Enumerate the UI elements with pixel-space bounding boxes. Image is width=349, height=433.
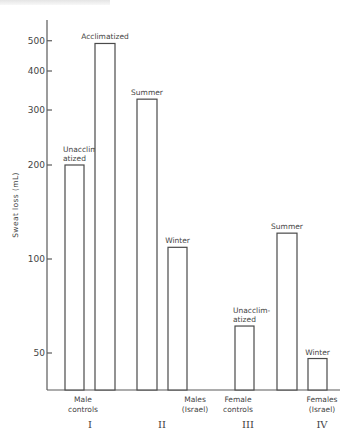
y-tick-label: 300 bbox=[28, 105, 45, 115]
sweat-loss-bar-chart: 50100200300400500Sweat loss (mL)Unacclim… bbox=[0, 0, 349, 433]
y-axis-title: Sweat loss (mL) bbox=[11, 172, 20, 238]
bar-label: Winter bbox=[305, 348, 331, 357]
group-label: Males bbox=[184, 395, 206, 404]
y-tick-label: 400 bbox=[28, 66, 45, 76]
bar-label: atized bbox=[233, 315, 256, 324]
group-label: Male bbox=[74, 395, 92, 404]
group-numeral: I bbox=[88, 419, 92, 430]
group-numeral: III bbox=[242, 419, 254, 430]
bar-label: Winter bbox=[165, 236, 191, 245]
bar bbox=[95, 43, 115, 390]
y-tick-label: 50 bbox=[34, 348, 46, 358]
group-label: controls bbox=[68, 405, 98, 414]
group-numeral: II bbox=[158, 419, 166, 430]
bar bbox=[65, 165, 84, 390]
bar bbox=[235, 326, 254, 390]
group-label: Female bbox=[224, 395, 252, 404]
group-label: controls bbox=[223, 405, 253, 414]
group-label: (Israel) bbox=[182, 405, 208, 414]
group-label: Females bbox=[306, 395, 337, 404]
bar-label: Unacclim- bbox=[233, 306, 271, 315]
bar bbox=[308, 359, 327, 390]
y-tick-label: 100 bbox=[28, 254, 45, 264]
y-tick-label: 200 bbox=[28, 160, 45, 170]
bar-label: Acclimatized bbox=[81, 32, 129, 41]
bar bbox=[137, 99, 157, 390]
bar-label: atized bbox=[63, 154, 86, 163]
y-tick-label: 500 bbox=[28, 36, 45, 46]
bar bbox=[168, 247, 187, 390]
bar-label: Summer bbox=[271, 222, 304, 231]
group-numeral: IV bbox=[316, 419, 328, 430]
bar bbox=[277, 233, 297, 390]
bar-label: Summer bbox=[131, 88, 164, 97]
group-label: (Israel) bbox=[309, 405, 335, 414]
